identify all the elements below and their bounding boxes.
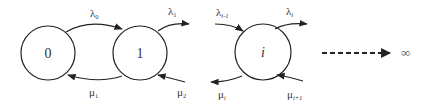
label-lambda1: λ1 [168, 5, 177, 18]
state-i-label: i [261, 45, 265, 60]
arrow-lambda-i [275, 24, 307, 29]
state-0-label: 0 [45, 46, 52, 61]
label-mu1: μ1 [89, 86, 98, 99]
state-i: i [235, 24, 291, 80]
state-1: 1 [113, 26, 167, 80]
arrow-mu1 [68, 75, 122, 80]
arrow-lambda0 [66, 24, 122, 32]
infinity-label: ∞ [401, 45, 410, 60]
label-lambda-i-minus-1: λi-1 [216, 6, 229, 19]
arrow-mu2 [158, 75, 185, 82]
arrow-mu-i [211, 76, 242, 82]
arrow-lambda1 [158, 24, 189, 31]
arrow-mu-i-plus-1 [277, 75, 303, 81]
label-mu2: μ2 [177, 86, 186, 99]
birth-death-diagram: 0 1 i λ0 μ1 λ1 μ2 [0, 0, 424, 106]
label-lambda-i: λi [286, 5, 293, 18]
state-1-label: 1 [137, 46, 144, 61]
label-mu-i: μi [218, 88, 226, 101]
label-mu-i-plus-1: μi+1 [287, 88, 302, 101]
label-lambda0: λ0 [90, 7, 99, 20]
state-0: 0 [21, 26, 75, 80]
arrow-lambda-i-minus-1 [215, 24, 243, 31]
